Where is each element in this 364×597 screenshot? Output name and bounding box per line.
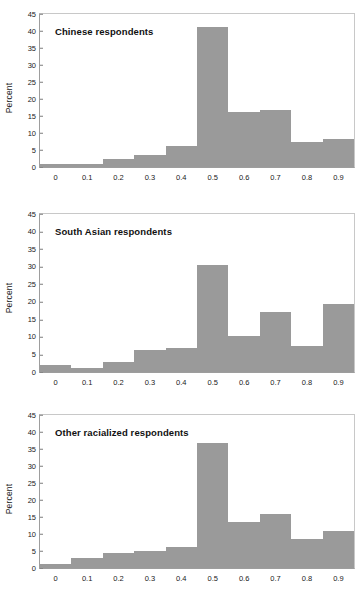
bar	[134, 551, 165, 568]
x-axis-tick-label: 0	[54, 174, 58, 182]
x-axis-tick-label: 0.1	[82, 379, 92, 387]
x-axis-tick: 0.4	[166, 372, 197, 394]
x-axis-tick-label: 0.9	[333, 575, 343, 583]
x-axis-tick-label: 0.8	[302, 575, 312, 583]
y-axis-tick-label: 30	[28, 61, 40, 69]
bar	[71, 558, 102, 568]
chart-panel-south-asian: Percent 051015202530354045 00.10.20.30.4…	[0, 195, 364, 400]
x-axis-tick: 0.6	[228, 568, 259, 590]
bar	[323, 531, 354, 568]
chart-panel-other-racialized: Percent 051015202530354045 00.10.20.30.4…	[0, 400, 364, 597]
x-axis-tick-label: 0.4	[176, 379, 186, 387]
bar	[134, 155, 165, 167]
y-axis-tick-label: 15	[28, 513, 40, 521]
bar	[260, 514, 291, 568]
x-axis-tick: 0.2	[103, 167, 134, 189]
x-axis-tick-label: 0	[54, 575, 58, 583]
x-axis-tick: 0.2	[103, 372, 134, 394]
x-axis-tick-label: 0.7	[270, 379, 280, 387]
x-axis-ticks: 00.10.20.30.40.50.60.70.80.9	[40, 568, 354, 590]
plot-area: 051015202530354045 00.10.20.30.40.50.60.…	[39, 213, 355, 373]
y-axis-tick-label: 35	[28, 245, 40, 253]
x-axis-tick: 0.8	[291, 568, 322, 590]
x-axis-tick-label: 0.2	[113, 379, 123, 387]
y-axis-tick-label: 0	[32, 368, 40, 376]
bar	[166, 348, 197, 372]
x-axis-tick: 0	[40, 372, 71, 394]
y-axis-tick-label: 35	[28, 445, 40, 453]
x-axis-tick-label: 0.5	[208, 575, 218, 583]
x-axis-tick-label: 0.3	[145, 379, 155, 387]
x-axis-tick-label: 0.7	[270, 575, 280, 583]
bar	[166, 547, 197, 568]
panel-title: South Asian respondents	[55, 226, 172, 237]
y-axis-tick-label: 25	[28, 78, 40, 86]
bar	[291, 346, 322, 372]
x-axis-tick-label: 0.5	[208, 174, 218, 182]
bar	[260, 312, 291, 372]
bar	[197, 443, 228, 568]
y-axis-tick-label: 20	[28, 95, 40, 103]
y-axis-tick-label: 15	[28, 112, 40, 120]
x-axis-tick-label: 0.3	[145, 174, 155, 182]
x-axis-tick: 0.4	[166, 167, 197, 189]
bar	[40, 365, 71, 372]
x-axis-tick-label: 0.9	[333, 379, 343, 387]
y-axis-tick-label: 45	[28, 411, 40, 419]
panel-title: Chinese respondents	[55, 26, 154, 37]
x-axis-tick-label: 0.3	[145, 575, 155, 583]
x-axis-tick: 0.5	[197, 568, 228, 590]
y-axis-tick-label: 30	[28, 462, 40, 470]
x-axis-tick-label: 0.6	[239, 379, 249, 387]
x-axis-tick: 0	[40, 568, 71, 590]
x-axis-tick-label: 0.6	[239, 575, 249, 583]
y-axis-tick-label: 5	[32, 351, 40, 359]
bar	[260, 110, 291, 167]
x-axis-tick-label: 0.1	[82, 575, 92, 583]
x-axis-tick: 0.9	[323, 372, 354, 394]
bar	[228, 522, 259, 568]
x-axis-ticks: 00.10.20.30.40.50.60.70.80.9	[40, 372, 354, 394]
x-axis-tick-label: 0.4	[176, 174, 186, 182]
x-axis-tick: 0.8	[291, 372, 322, 394]
panel-title: Other racialized respondents	[55, 427, 189, 438]
x-axis-tick: 0.5	[197, 167, 228, 189]
y-axis-tick-label: 45	[28, 10, 40, 18]
y-axis-tick-label: 5	[32, 547, 40, 555]
y-axis-tick-label: 45	[28, 210, 40, 218]
y-axis-tick-label: 10	[28, 129, 40, 137]
y-axis-label: Percent	[2, 0, 16, 195]
x-axis-tick: 0.1	[71, 372, 102, 394]
x-axis-tick-label: 0.6	[239, 174, 249, 182]
bar	[323, 139, 354, 167]
bar	[103, 362, 134, 372]
y-axis-label: Percent	[2, 400, 16, 597]
y-axis-tick-label: 35	[28, 44, 40, 52]
x-axis-tick: 0.7	[260, 568, 291, 590]
y-axis-tick-label: 25	[28, 280, 40, 288]
x-axis-tick: 0.6	[228, 167, 259, 189]
x-axis-tick: 0.7	[260, 372, 291, 394]
x-axis-tick: 0.3	[134, 372, 165, 394]
x-axis-tick-label: 0.2	[113, 575, 123, 583]
bar	[166, 146, 197, 167]
bar	[134, 350, 165, 372]
x-axis-tick-label: 0.4	[176, 575, 186, 583]
y-axis-tick-label: 40	[28, 228, 40, 236]
x-axis-tick-label: 0.2	[113, 174, 123, 182]
y-axis-label: Percent	[2, 195, 16, 400]
y-axis-tick-label: 10	[28, 333, 40, 341]
x-axis-tick-label: 0	[54, 379, 58, 387]
x-axis-ticks: 00.10.20.30.40.50.60.70.80.9	[40, 167, 354, 189]
y-axis-tick-label: 30	[28, 263, 40, 271]
x-axis-tick-label: 0.1	[82, 174, 92, 182]
y-axis-tick-label: 5	[32, 146, 40, 154]
y-axis-tick-label: 40	[28, 27, 40, 35]
bar	[103, 553, 134, 568]
x-axis-tick: 0.7	[260, 167, 291, 189]
y-axis-tick-label: 20	[28, 496, 40, 504]
x-axis-tick: 0.1	[71, 167, 102, 189]
bar	[323, 304, 354, 372]
x-axis-tick: 0.4	[166, 568, 197, 590]
x-axis-tick-label: 0.8	[302, 379, 312, 387]
